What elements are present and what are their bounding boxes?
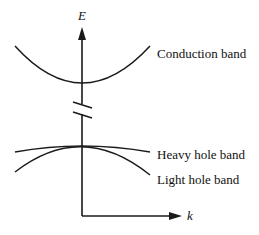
band-diagram <box>0 0 259 235</box>
conduction-band-label: Conduction band <box>157 46 246 62</box>
k-axis-arrow-icon <box>169 212 182 220</box>
energy-axis-arrow-icon <box>78 27 86 40</box>
k-axis-label: k <box>187 208 193 224</box>
heavy-hole-band-label: Heavy hole band <box>157 147 245 163</box>
energy-axis-label: E <box>78 8 86 24</box>
light-hole-band-label: Light hole band <box>157 172 239 188</box>
